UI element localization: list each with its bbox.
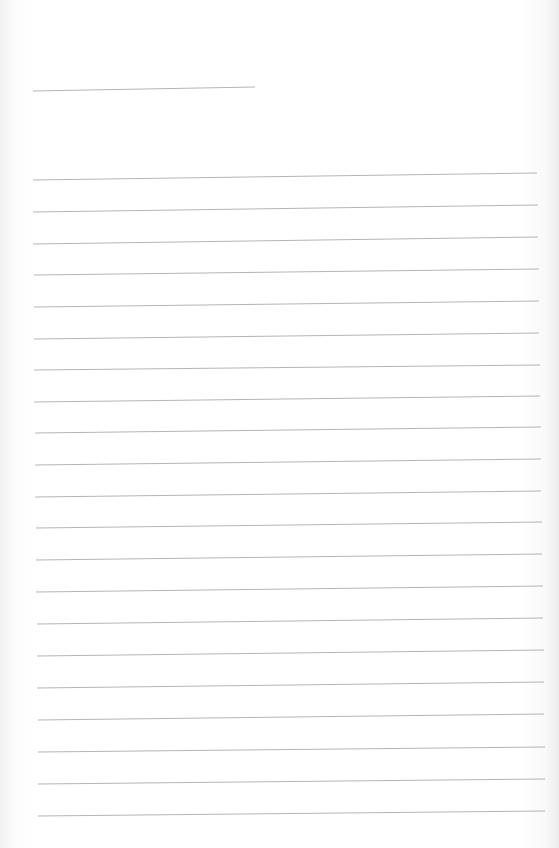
ruled-line (33, 237, 538, 244)
ruled-line (37, 682, 544, 688)
header-line (33, 87, 255, 91)
ruled-line (33, 205, 538, 212)
ruled-line (36, 586, 543, 592)
ruled-line (38, 811, 545, 816)
ruled-line (38, 747, 545, 752)
ruled-line (34, 365, 540, 370)
ruled-line (33, 173, 537, 180)
ruled-line (36, 522, 542, 528)
ruled-line (36, 554, 542, 560)
ruled-line (38, 779, 545, 784)
ruled-line (35, 427, 541, 433)
ruled-line (34, 396, 540, 402)
ruled-line (37, 618, 543, 624)
ruled-line (35, 459, 541, 465)
ruled-line (34, 333, 539, 339)
ruled-line (34, 301, 539, 307)
ruled-lines (0, 0, 559, 848)
ruled-line (37, 650, 544, 656)
ruled-line (35, 491, 541, 497)
lined-paper-page (0, 0, 559, 848)
ruled-line (38, 714, 544, 720)
ruled-line (34, 269, 539, 275)
